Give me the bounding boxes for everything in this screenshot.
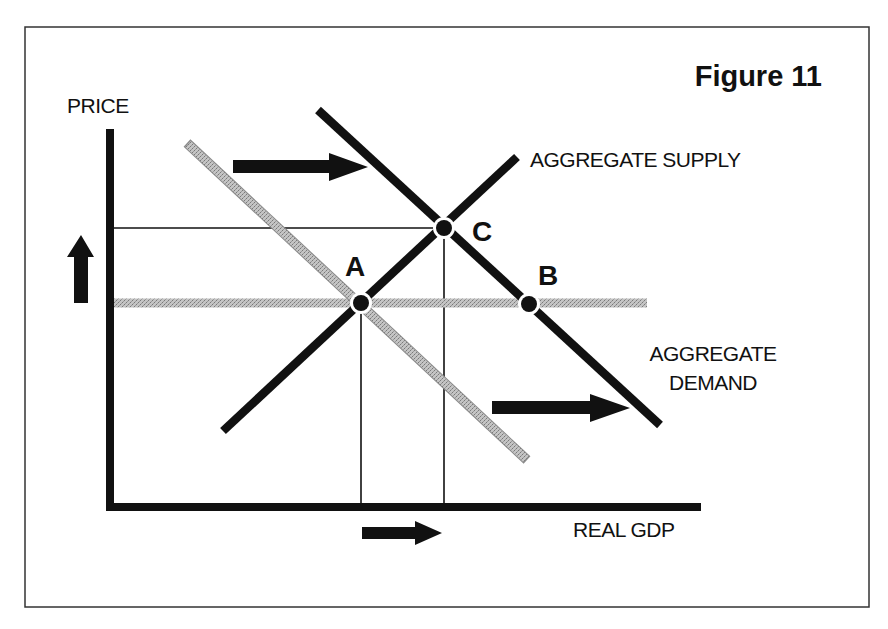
point-b-dot — [521, 296, 537, 312]
point-b-label: B — [538, 260, 558, 291]
aggregate-demand-label-line2: DEMAND — [669, 371, 757, 394]
figure-11-diagram: Figure 11 PRICE REAL GDP A B C AGGREGATE… — [0, 0, 888, 629]
gdp-increase-arrow-icon — [362, 521, 442, 545]
point-a-dot — [353, 295, 369, 311]
ad-shift-arrow-bottom-icon — [492, 394, 630, 422]
aggregate-supply-curve — [223, 157, 517, 431]
point-c-label: C — [472, 216, 492, 247]
aggregate-demand-label-line1: AGGREGATE — [650, 342, 777, 365]
price-rise-arrow-icon — [67, 235, 94, 303]
figure-title: Figure 11 — [695, 60, 822, 92]
x-axis-label: REAL GDP — [573, 518, 674, 541]
aggregate-supply-label: AGGREGATE SUPPLY — [530, 148, 741, 171]
y-axis-label: PRICE — [67, 94, 129, 117]
figure-frame — [25, 27, 869, 607]
point-c-dot — [436, 220, 452, 236]
point-a-label: A — [345, 251, 365, 282]
ad-shift-arrow-top-icon — [233, 153, 368, 181]
